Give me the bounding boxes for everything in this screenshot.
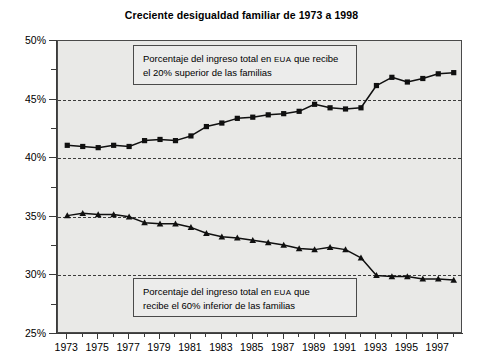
x-tick-minor-1986 [267, 333, 268, 337]
data-point [80, 144, 85, 149]
x-tick-label-1989: 1989 [302, 341, 325, 353]
x-tick-1997 [437, 333, 438, 339]
data-point [343, 106, 348, 111]
annotation-bottom-line2: recibe el 60% inferior de las familias [143, 299, 348, 312]
data-point [111, 143, 116, 148]
x-tick-label-1973: 1973 [55, 341, 78, 353]
y-tick-minor-47.5 [51, 69, 57, 70]
data-point [219, 120, 224, 125]
data-point [250, 115, 255, 120]
x-tick-minor-1984 [236, 333, 237, 337]
data-point [204, 124, 209, 129]
annotation-bottom-eua: EUA [274, 288, 291, 297]
x-tick-1975 [97, 333, 98, 339]
y-tick-50 [49, 40, 57, 41]
y-tick-minor-37.5 [51, 187, 57, 188]
x-tick-1987 [283, 333, 284, 339]
data-point [235, 116, 240, 121]
series-line [67, 213, 453, 280]
y-tick-45 [49, 99, 57, 100]
x-tick-minor-1980 [174, 333, 175, 337]
data-point [374, 83, 379, 88]
x-tick-1977 [128, 333, 129, 339]
x-tick-1973 [66, 333, 67, 339]
data-point [358, 105, 363, 110]
x-tick-minor-1978 [144, 333, 145, 337]
y-tick-40 [49, 157, 57, 158]
annotation-bottom-text-c: que [291, 286, 310, 297]
x-tick-label-1977: 1977 [116, 341, 139, 353]
y-tick-label-45: 45% [2, 93, 46, 105]
chart-root: Creciente desigualdad familiar de 1973 a… [0, 0, 483, 361]
x-tick-minor-1976 [113, 333, 114, 337]
x-tick-minor-1982 [205, 333, 206, 337]
x-tick-label-1975: 1975 [86, 341, 109, 353]
y-tick-minor-32.5 [51, 245, 57, 246]
y-tick-label-40: 40% [2, 151, 46, 163]
x-tick-1985 [252, 333, 253, 339]
x-tick-label-1983: 1983 [209, 341, 232, 353]
x-tick-label-1987: 1987 [271, 341, 294, 353]
y-tick-label-25: 25% [2, 327, 46, 339]
x-tick-label-1979: 1979 [147, 341, 170, 353]
data-point [297, 109, 302, 114]
page-title: Creciente desigualdad familiar de 1973 a… [0, 9, 483, 21]
x-tick-label-1991: 1991 [333, 341, 356, 353]
x-tick-label-1995: 1995 [395, 341, 418, 353]
x-tick-minor-1994 [391, 333, 392, 337]
data-point [281, 111, 286, 116]
y-tick-minor-27.5 [51, 304, 57, 305]
x-tick-minor-1988 [298, 333, 299, 337]
annotation-top-eua: EUA [274, 55, 291, 64]
x-tick-1993 [375, 333, 376, 339]
x-tick-label-1985: 1985 [240, 341, 263, 353]
data-point [96, 145, 101, 150]
x-tick-1995 [406, 333, 407, 339]
x-tick-1991 [345, 333, 346, 339]
x-tick-1989 [314, 333, 315, 339]
data-point [312, 102, 317, 107]
y-tick-35 [49, 216, 57, 217]
data-point [173, 138, 178, 143]
annotation-bottom-line1: Porcentaje del ingreso total en EUA que [143, 285, 348, 299]
data-point [405, 79, 410, 84]
annotation-top-text-c: que recibe [291, 53, 338, 64]
data-point [358, 255, 365, 261]
data-point [420, 76, 425, 81]
x-tick-minor-1998 [453, 333, 454, 337]
data-point [157, 137, 162, 142]
x-tick-minor-1992 [360, 333, 361, 337]
data-point [127, 144, 132, 149]
x-tick-1979 [159, 333, 160, 339]
y-tick-25 [49, 333, 57, 334]
y-tick-minor-42.5 [51, 128, 57, 129]
y-axis-labels: 25%30%35%40%45%50% [0, 0, 46, 361]
x-tick-minor-1974 [82, 333, 83, 337]
annotation-top-line2: el 20% superior de las familias [143, 66, 348, 79]
x-tick-minor-1996 [422, 333, 423, 337]
x-tick-label-1981: 1981 [178, 341, 201, 353]
data-point [389, 75, 394, 80]
annotation-top-text-a: Porcentaje del ingreso total en [143, 53, 274, 64]
x-tick-label-1993: 1993 [364, 341, 387, 353]
annotation-top-line1: Porcentaje del ingreso total en EUA que … [143, 52, 348, 66]
data-point [142, 138, 147, 143]
y-tick-label-35: 35% [2, 210, 46, 222]
data-point [266, 112, 271, 117]
x-tick-label-1997: 1997 [426, 341, 449, 353]
x-tick-1981 [190, 333, 191, 339]
data-point [436, 71, 441, 76]
data-point [65, 143, 70, 148]
y-tick-label-30: 30% [2, 268, 46, 280]
y-tick-label-50: 50% [2, 34, 46, 46]
annotation-bottom-series: Porcentaje del ingreso total en EUA que … [133, 278, 357, 317]
data-point [188, 133, 193, 138]
data-point [327, 105, 332, 110]
annotation-bottom-text-a: Porcentaje del ingreso total en [143, 286, 274, 297]
x-tick-minor-1990 [329, 333, 330, 337]
x-axis-line [57, 333, 463, 334]
annotation-top-series: Porcentaje del ingreso total en EUA que … [133, 45, 357, 85]
data-point [451, 70, 456, 75]
series-bottom-60-percent [64, 210, 457, 283]
y-tick-30 [49, 274, 57, 275]
